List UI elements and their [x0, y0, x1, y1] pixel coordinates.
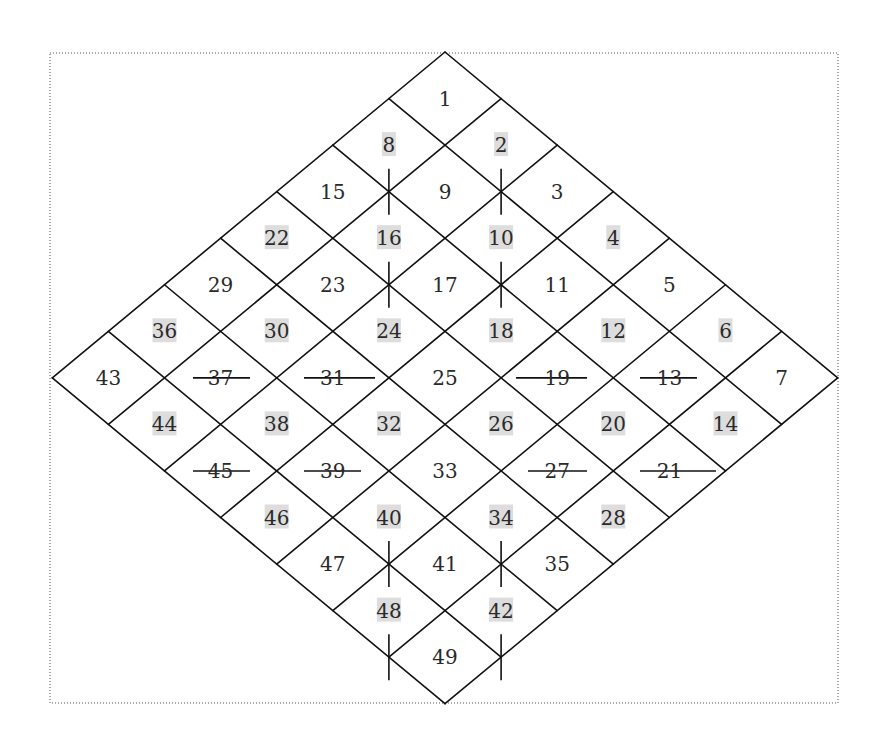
cell-label-35: 35 [544, 552, 569, 576]
cell-label-16: 16 [376, 226, 401, 250]
cell-label-34: 34 [488, 506, 513, 530]
cell-label-24: 24 [376, 319, 401, 343]
cell-label-45: 45 [208, 459, 233, 483]
cell-label-14: 14 [713, 412, 738, 436]
cell-label-7: 7 [775, 366, 788, 390]
cell-label-26: 26 [488, 412, 513, 436]
cell-label-1: 1 [439, 87, 452, 111]
cell-label-9: 9 [439, 180, 452, 204]
cell-label-44: 44 [152, 412, 177, 436]
cell-label-19: 19 [544, 366, 569, 390]
cell-label-11: 11 [544, 273, 569, 297]
cell-label-25: 25 [432, 366, 457, 390]
cell-label-47: 47 [320, 552, 345, 576]
cell-label-18: 18 [488, 319, 513, 343]
cell-label-6: 6 [719, 319, 732, 343]
cell-label-27: 27 [544, 459, 569, 483]
cell-label-3: 3 [551, 180, 564, 204]
numbered-diamond-grid-diagram: 1234567891011121314151617181920212223242… [0, 0, 885, 747]
cell-label-2: 2 [495, 133, 508, 157]
cell-label-17: 17 [432, 273, 457, 297]
cell-label-12: 12 [601, 319, 626, 343]
cell-label-10: 10 [488, 226, 513, 250]
cell-label-31: 31 [320, 366, 345, 390]
cell-label-43: 43 [96, 366, 121, 390]
cell-label-20: 20 [601, 412, 626, 436]
cell-label-4: 4 [607, 226, 620, 250]
cell-label-40: 40 [376, 506, 401, 530]
cell-label-32: 32 [376, 412, 401, 436]
cell-label-48: 48 [376, 599, 401, 623]
cell-label-29: 29 [208, 273, 233, 297]
cell-label-8: 8 [383, 133, 396, 157]
cell-label-41: 41 [432, 552, 457, 576]
cell-label-15: 15 [320, 180, 345, 204]
cell-label-39: 39 [320, 459, 345, 483]
cell-label-42: 42 [488, 599, 513, 623]
cell-label-49: 49 [432, 645, 457, 669]
cell-label-37: 37 [208, 366, 233, 390]
cell-label-23: 23 [320, 273, 345, 297]
cell-label-28: 28 [601, 506, 626, 530]
cell-label-30: 30 [264, 319, 289, 343]
cell-label-36: 36 [152, 319, 177, 343]
cell-label-5: 5 [663, 273, 676, 297]
cell-label-33: 33 [432, 459, 457, 483]
cell-label-38: 38 [264, 412, 289, 436]
cell-label-22: 22 [264, 226, 289, 250]
cell-label-13: 13 [657, 366, 682, 390]
cell-label-21: 21 [657, 459, 682, 483]
cell-label-46: 46 [264, 506, 289, 530]
